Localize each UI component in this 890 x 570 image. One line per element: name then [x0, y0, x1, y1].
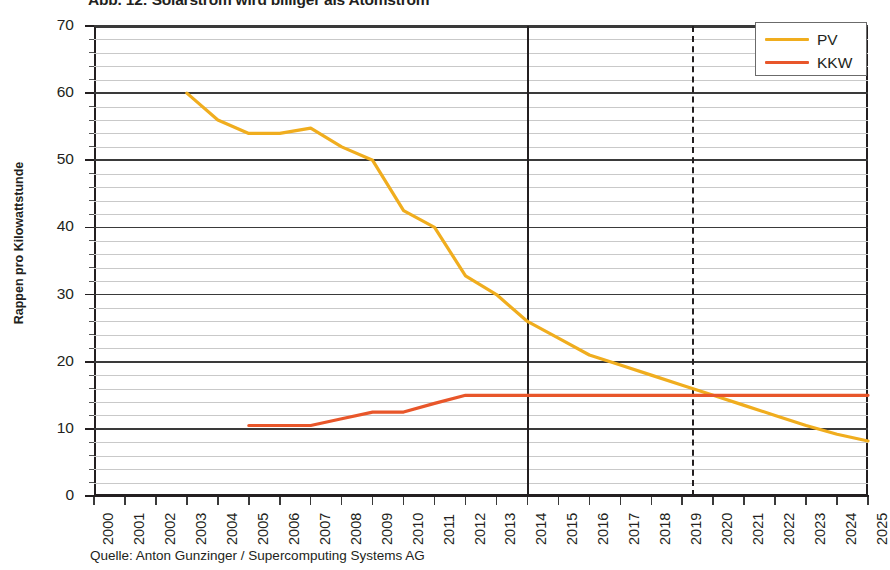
y-tick-mark	[85, 227, 94, 229]
legend-swatch-pv	[765, 38, 809, 41]
x-tick-label: 2007	[317, 513, 333, 545]
x-tick-label: 2005	[255, 513, 271, 545]
x-tick-label: 2001	[131, 513, 147, 545]
y-tick-mark	[85, 428, 94, 430]
y-tick-mark-minor	[89, 321, 94, 322]
y-tick-mark-minor	[89, 146, 94, 147]
y-tick-mark-minor	[89, 482, 94, 483]
y-tick-label: 70	[26, 16, 74, 34]
y-tick-mark-minor	[89, 348, 94, 349]
x-tick-label: 2006	[286, 513, 302, 545]
y-tick-mark-minor	[89, 455, 94, 456]
x-tick-label: 2009	[379, 513, 395, 545]
x-tick-label: 2022	[781, 513, 797, 545]
x-tick-mark	[279, 497, 281, 505]
x-tick-mark	[93, 497, 95, 505]
x-tick-mark	[186, 497, 188, 505]
y-tick-mark-minor	[89, 254, 94, 255]
x-tick-label: 2021	[750, 513, 766, 545]
x-tick-label: 2013	[502, 513, 518, 545]
x-tick-mark	[620, 497, 622, 505]
y-tick-label: 40	[26, 217, 74, 235]
x-tick-mark	[558, 497, 560, 505]
x-tick-label: 2003	[193, 513, 209, 545]
x-tick-mark	[217, 497, 219, 505]
x-tick-label: 2004	[224, 513, 240, 545]
x-tick-label: 2012	[472, 513, 488, 545]
x-tick-mark	[310, 497, 312, 505]
y-tick-mark-minor	[89, 267, 94, 268]
x-tick-mark	[372, 497, 374, 505]
y-tick-mark-minor	[89, 106, 94, 107]
x-axis-line	[94, 495, 869, 497]
x-tick-label: 2008	[348, 513, 364, 545]
plot-area	[94, 26, 868, 496]
y-tick-label: 60	[26, 83, 74, 101]
series-layer	[94, 26, 868, 496]
y-tick-mark-minor	[89, 173, 94, 174]
y-tick-mark-minor	[89, 79, 94, 80]
y-tick-mark-minor	[89, 200, 94, 201]
x-tick-label: 2000	[100, 513, 116, 545]
x-tick-label: 2017	[626, 513, 642, 545]
x-tick-mark	[155, 497, 157, 505]
x-tick-label: 2016	[595, 513, 611, 545]
y-tick-mark-minor	[89, 66, 94, 67]
y-tick-mark-minor	[89, 375, 94, 376]
y-tick-mark	[85, 159, 94, 161]
x-tick-mark	[341, 497, 343, 505]
x-tick-mark	[465, 497, 467, 505]
x-tick-label: 2018	[657, 513, 673, 545]
x-tick-mark	[681, 497, 683, 505]
x-tick-label: 2002	[162, 513, 178, 545]
y-tick-mark-minor	[89, 133, 94, 134]
x-tick-mark	[527, 497, 529, 505]
legend-swatch-kkw	[765, 61, 809, 64]
x-tick-mark	[743, 497, 745, 505]
y-tick-mark-minor	[89, 39, 94, 40]
x-tick-mark	[403, 497, 405, 505]
y-tick-mark-minor	[89, 388, 94, 389]
x-tick-mark	[124, 497, 126, 505]
x-tick-label: 2019	[688, 513, 704, 545]
x-tick-mark	[805, 497, 807, 505]
x-tick-label: 2024	[843, 513, 859, 545]
x-tick-label: 2014	[533, 513, 549, 545]
x-tick-label: 2023	[812, 513, 828, 545]
y-tick-label: 0	[26, 486, 74, 504]
y-tick-mark	[85, 294, 94, 296]
x-tick-mark	[651, 497, 653, 505]
y-tick-mark-minor	[89, 240, 94, 241]
legend: PV KKW	[755, 22, 867, 76]
y-tick-mark-minor	[89, 402, 94, 403]
x-tick-mark	[248, 497, 250, 505]
x-tick-mark	[836, 497, 838, 505]
y-tick-mark	[85, 25, 94, 27]
x-tick-mark	[589, 497, 591, 505]
y-tick-mark-minor	[89, 187, 94, 188]
series-line-pv	[187, 93, 868, 441]
y-tick-label: 20	[26, 352, 74, 370]
legend-label-pv: PV	[817, 32, 838, 48]
x-tick-mark	[867, 497, 869, 505]
legend-label-kkw: KKW	[817, 55, 852, 71]
y-tick-label: 10	[26, 419, 74, 437]
y-tick-label: 50	[26, 150, 74, 168]
x-tick-mark	[496, 497, 498, 505]
y-tick-label: 30	[26, 285, 74, 303]
y-tick-mark	[85, 361, 94, 363]
y-axis-title: Rappen pro Kilowattstunde	[12, 123, 26, 363]
y-tick-mark-minor	[89, 281, 94, 282]
series-line-kkw	[249, 395, 868, 425]
y-tick-mark-minor	[89, 308, 94, 309]
x-tick-mark	[434, 497, 436, 505]
x-tick-label: 2010	[410, 513, 426, 545]
y-tick-mark	[85, 92, 94, 94]
y-tick-mark-minor	[89, 415, 94, 416]
legend-item-kkw: KKW	[765, 55, 852, 71]
x-tick-mark	[712, 497, 714, 505]
y-tick-mark-minor	[89, 469, 94, 470]
legend-item-pv: PV	[765, 32, 838, 48]
chart-title: Abb. 12: Solarstrom wird billiger als At…	[88, 0, 429, 9]
x-tick-mark	[774, 497, 776, 505]
